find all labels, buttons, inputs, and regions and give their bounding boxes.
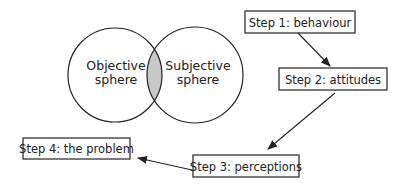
subjective-sphere-label-line2: sphere — [177, 72, 220, 87]
step-1-label: Step 1: behaviour — [249, 16, 352, 30]
arrow-step1-to-step2 — [298, 33, 330, 66]
step-3-box: Step 3: perceptions — [190, 155, 302, 177]
step-3-label: Step 3: perceptions — [190, 160, 302, 174]
step-4-box: Step 4: the problem — [19, 138, 134, 159]
subjective-sphere-label-line1: Subjective — [165, 58, 231, 73]
step-1-box: Step 1: behaviour — [245, 11, 355, 33]
step-2-box: Step 2: attitudes — [279, 68, 387, 90]
arrow-step3-to-step4 — [138, 158, 192, 170]
arrow-step2-to-step3 — [268, 93, 335, 149]
objective-sphere-label-line1: Objective — [86, 58, 146, 73]
step-4-label: Step 4: the problem — [19, 142, 134, 156]
step-2-label: Step 2: attitudes — [285, 73, 381, 87]
objective-sphere-label-line2: sphere — [95, 72, 138, 87]
venn-process-diagram: Objective sphere Subjective sphere Step … — [0, 0, 408, 194]
